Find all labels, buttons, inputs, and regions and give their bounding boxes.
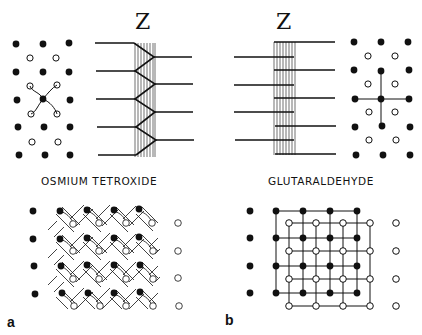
panel-b-z-label: Z bbox=[276, 11, 291, 33]
z-line-fixation-figure: Z Z OSMIUM TETROXIDE GLUTARALDEHYDE a b bbox=[0, 0, 422, 335]
panel-a-basket-weave bbox=[30, 205, 183, 309]
panel-b-square-lattice bbox=[247, 208, 400, 310]
panel-b-label: b bbox=[225, 312, 234, 328]
figure-drawing bbox=[0, 0, 422, 335]
panel-a-top-lattice bbox=[13, 40, 74, 159]
panel-b-caption: GLUTARALDEHYDE bbox=[268, 175, 374, 187]
panel-a-z-label: Z bbox=[135, 11, 150, 33]
panel-b-top-lattice bbox=[351, 39, 414, 159]
panel-b-z-line bbox=[234, 42, 336, 155]
panel-a-label: a bbox=[7, 314, 15, 330]
panel-a-z-line bbox=[95, 43, 194, 157]
panel-a-caption: OSMIUM TETROXIDE bbox=[41, 175, 157, 187]
